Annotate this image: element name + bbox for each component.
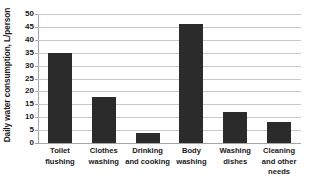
bar — [48, 53, 72, 143]
x-axis-label-line: needs — [251, 167, 307, 178]
plot-area — [38, 14, 301, 143]
y-tick-label-35: 35 — [25, 49, 34, 57]
y-tick-label-40: 40 — [25, 36, 34, 44]
y-axis-title-text: Daily water consumption, L/person — [2, 8, 12, 143]
y-tick-mark-5 — [35, 130, 38, 131]
bar — [136, 133, 160, 143]
x-axis-label-line: and other — [251, 157, 307, 168]
y-axis-title: Daily water consumption, L/person — [0, 0, 14, 150]
y-tick-label-5: 5 — [30, 126, 34, 134]
y-tick-label-45: 45 — [25, 23, 34, 31]
y-tick-mark-0 — [35, 143, 38, 144]
y-tick-label-30: 30 — [25, 62, 34, 70]
y-tick-mark-40 — [35, 40, 38, 41]
x-axis-category-labels: ToiletflushingClotheswashingDrinkingand … — [38, 146, 301, 186]
x-axis-label-line: Cleaning — [251, 146, 307, 157]
gridline-0 — [38, 143, 301, 144]
y-tick-mark-35 — [35, 53, 38, 54]
y-tick-mark-50 — [35, 14, 38, 15]
y-tick-mark-30 — [35, 66, 38, 67]
y-tick-mark-20 — [35, 91, 38, 92]
y-tick-mark-15 — [35, 104, 38, 105]
y-tick-label-25: 25 — [25, 75, 34, 83]
bar — [179, 24, 203, 143]
y-tick-label-50: 50 — [25, 10, 34, 18]
y-tick-mark-25 — [35, 79, 38, 80]
y-tick-mark-45 — [35, 27, 38, 28]
y-axis-tick-labels: 05101520253035404550 — [14, 9, 36, 144]
bars-group — [38, 14, 301, 143]
y-tick-label-10: 10 — [25, 113, 34, 121]
bar — [267, 122, 291, 143]
bar-chart: Daily water consumption, L/person 051015… — [0, 0, 311, 186]
bar — [223, 112, 247, 143]
bar — [92, 97, 116, 143]
y-tick-mark-10 — [35, 117, 38, 118]
y-tick-label-15: 15 — [25, 100, 34, 108]
x-axis-label: Cleaningand otherneeds — [251, 146, 307, 178]
y-tick-label-20: 20 — [25, 87, 34, 95]
